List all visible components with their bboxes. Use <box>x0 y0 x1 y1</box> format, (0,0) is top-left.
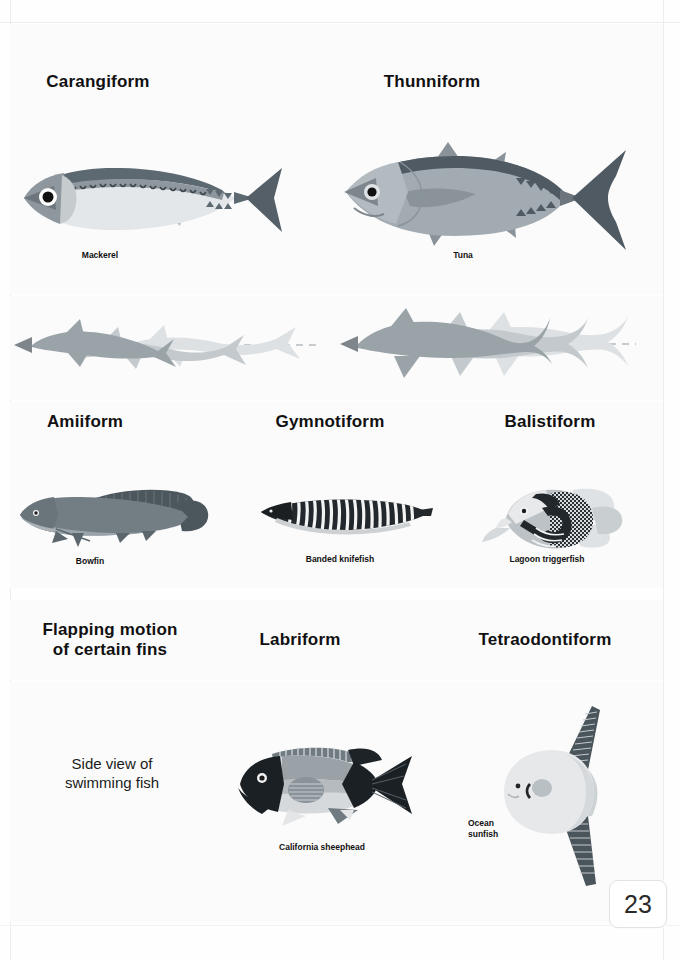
mackerel-eye-pupil <box>43 192 54 203</box>
heading-carangiform: Carangiform <box>18 72 178 92</box>
heading-labriform: Labriform <box>220 630 380 650</box>
motion-thunniform <box>336 300 656 380</box>
caption-bowfin: Bowfin <box>40 556 140 567</box>
page-guide-right <box>663 0 664 960</box>
note-side-view: Side view of swimming fish <box>22 754 202 792</box>
bowfin-anal-fin-2 <box>142 531 156 541</box>
figure-bowfin <box>12 475 212 555</box>
motion-arrow <box>340 336 358 352</box>
mackerel-tail <box>246 168 282 232</box>
heading-balistiform: Balistiform <box>470 412 630 432</box>
caption-california-sheephead: California sheephead <box>222 842 422 853</box>
triggerfish-eye-pupil <box>522 509 526 513</box>
motion-carangiform <box>8 305 328 375</box>
caption-lagoon-triggerfish: Lagoon triggerfish <box>482 554 612 565</box>
figure-banded-knifefish <box>255 490 435 552</box>
tuna-eye-pupil <box>367 187 376 196</box>
sheephead-head <box>240 756 284 812</box>
heading-amiiform: Amiiform <box>10 412 160 432</box>
sunfish-pectoral-fin <box>532 779 552 797</box>
bowfin-eye-pupil <box>34 511 37 514</box>
caption-tuna: Tuna <box>408 250 518 261</box>
sheephead-eye-pupil <box>259 775 264 780</box>
page-number: 23 <box>609 880 667 928</box>
knifefish-head <box>261 502 293 520</box>
figure-california-sheephead <box>226 728 426 828</box>
caption-ocean-sunfish: Ocean sunfish <box>468 818 558 840</box>
page-guide-top <box>0 22 680 23</box>
heading-thunniform: Thunniform <box>352 72 512 92</box>
figure-ocean-sunfish <box>496 700 626 890</box>
tuna-tail <box>572 150 626 250</box>
triggerfish-lower-jaw <box>482 528 510 542</box>
figure-tuna <box>330 130 640 260</box>
figure-lagoon-triggerfish <box>480 478 630 558</box>
figure-mackerel <box>10 142 290 252</box>
caption-banded-knifefish: Banded knifefish <box>270 554 410 565</box>
knifefish-eye <box>269 509 272 512</box>
sheephead-soft-dorsal <box>348 748 382 766</box>
bowfin-anal-fin-1 <box>116 533 130 543</box>
sunfish-eye <box>516 784 521 789</box>
book-page: Carangiform Thunniform <box>0 0 680 960</box>
motion-arrow <box>14 337 32 353</box>
heading-flapping-motion: Flapping motion of certain fins <box>20 620 200 660</box>
page-guide-bottom <box>0 925 680 926</box>
sheephead-flank-spot <box>288 777 324 803</box>
heading-gymnotiform: Gymnotiform <box>250 412 410 432</box>
heading-tetraodontiform: Tetraodontiform <box>450 630 640 650</box>
caption-mackerel: Mackerel <box>40 250 160 261</box>
